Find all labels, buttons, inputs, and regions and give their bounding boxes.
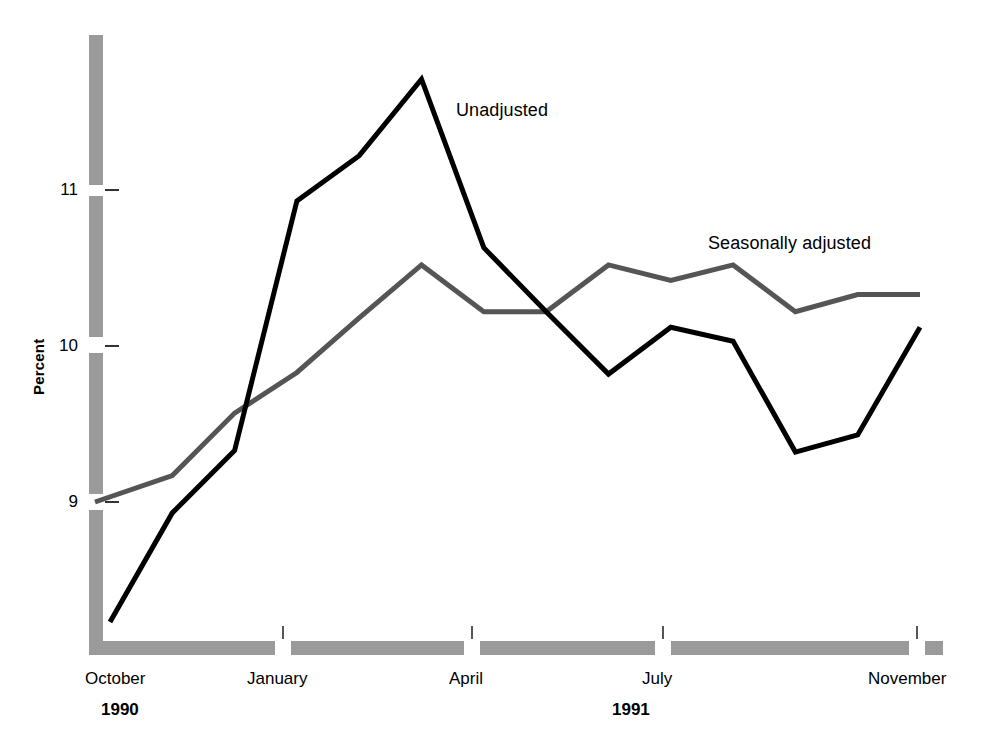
y-tick-label-11: 11 bbox=[38, 180, 78, 200]
annotation-unadjusted: Unadjusted bbox=[456, 100, 548, 121]
x-tick-label-april: April bbox=[449, 669, 483, 689]
x-tick-label-january: January bbox=[247, 669, 307, 689]
x-axis-bar bbox=[89, 641, 943, 655]
y-axis-ticks bbox=[105, 189, 119, 503]
x-tick-label-october: October bbox=[85, 669, 145, 689]
x-tick-label-july: July bbox=[642, 669, 672, 689]
series-line-unadjusted bbox=[110, 79, 920, 622]
annotation-seasonally-adjusted: Seasonally adjusted bbox=[708, 233, 871, 254]
line-chart: Percent 11 10 9 October January April Ju… bbox=[0, 0, 993, 755]
y-tick-label-9: 9 bbox=[38, 492, 78, 512]
x-tick-label-november: November bbox=[868, 669, 946, 689]
x-year-label-1990: 1990 bbox=[101, 700, 139, 720]
y-tick-label-10: 10 bbox=[38, 336, 78, 356]
x-axis-ticks bbox=[282, 626, 918, 639]
y-axis-bar bbox=[89, 35, 103, 655]
x-year-label-1991: 1991 bbox=[612, 700, 650, 720]
